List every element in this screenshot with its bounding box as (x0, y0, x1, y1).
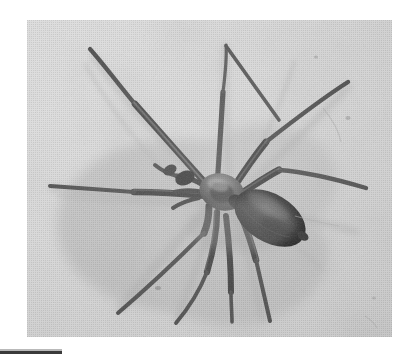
spider-photo-canvas (27, 20, 392, 337)
spider-photograph (27, 20, 392, 337)
caption-rule (0, 351, 62, 354)
page-root (0, 0, 420, 358)
